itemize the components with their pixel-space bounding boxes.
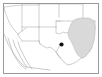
map-canvas: [0, 0, 102, 77]
locator-map-thumbnail: [0, 0, 102, 77]
site-marker: [59, 42, 63, 46]
